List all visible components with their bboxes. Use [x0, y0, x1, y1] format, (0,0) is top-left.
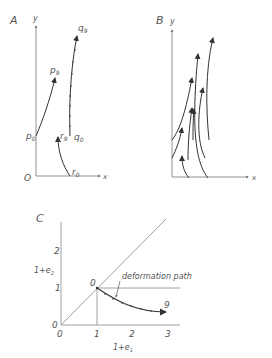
y-axis-label: y — [169, 17, 175, 26]
r9-label: r9 — [60, 131, 68, 142]
x-axis-label: 1+e1 — [113, 343, 133, 353]
y-axis-label: 1+e2 — [34, 266, 54, 276]
x-axis-label: x — [251, 174, 257, 182]
end-label: 9 — [164, 300, 170, 310]
panel-a-label: A — [9, 14, 18, 27]
p0-label: p0 — [25, 131, 36, 142]
y-tick-0: 0 — [52, 320, 58, 330]
r0-label: r0 — [72, 167, 80, 178]
panel-a: A y x O p0 p9 q0 q9 r9 r0 — [9, 14, 108, 183]
origin-label: O — [24, 173, 31, 183]
r-path — [58, 137, 70, 176]
panel-c: C 0 1 2 3 0 1 2 1+e2 1+e1 0 9 deformatio — [34, 212, 192, 353]
flow-lines — [172, 38, 213, 178]
panel-c-label: C — [36, 212, 44, 225]
p-path — [36, 78, 55, 136]
deformation-path — [97, 288, 166, 312]
p9-label: p9 — [49, 65, 60, 76]
x-tick-1: 1 — [94, 329, 100, 339]
annotation-label: deformation path — [122, 272, 192, 281]
start-label: 0 — [90, 278, 96, 288]
y-tick-2: 2 — [54, 246, 60, 256]
panel-b-label: B — [156, 14, 164, 27]
y-axis-label: y — [32, 14, 38, 23]
x-axis-label: x — [102, 173, 108, 181]
x-tick-2: 2 — [129, 329, 135, 339]
annotation-pointer — [116, 281, 120, 297]
panel-b: B y x — [156, 14, 257, 182]
y-tick-1: 1 — [55, 283, 61, 293]
x-tick-3: 3 — [165, 329, 171, 339]
figure: A y x O p0 p9 q0 q9 r9 r0 B y x — [0, 0, 272, 358]
q9-label: q9 — [78, 23, 88, 34]
q0-label: q0 — [74, 132, 84, 143]
x-tick-0: 0 — [57, 329, 63, 339]
